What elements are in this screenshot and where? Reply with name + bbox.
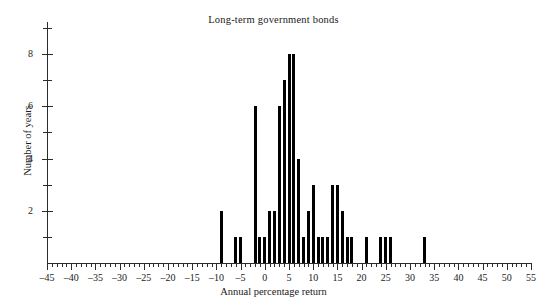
histogram-bar	[273, 211, 276, 263]
x-axis-tick-minor	[115, 263, 116, 267]
histogram-bar	[331, 185, 334, 263]
x-axis-tick-minor	[347, 263, 348, 267]
x-axis-tick-minor	[366, 263, 367, 267]
x-axis-tick-minor	[66, 263, 67, 267]
x-axis-tick-minor	[260, 263, 261, 267]
x-axis-tick-minor	[173, 263, 174, 267]
x-axis-tick-minor	[158, 263, 159, 267]
histogram-bar	[234, 237, 237, 263]
x-axis-tick-major	[362, 263, 363, 270]
x-axis-tick-major	[337, 263, 338, 270]
x-axis-tick-minor	[502, 263, 503, 267]
y-axis-line	[47, 22, 48, 264]
x-axis-tick-minor	[134, 263, 135, 267]
x-axis-tick-minor	[516, 263, 517, 267]
x-axis-tick-major	[241, 263, 242, 270]
histogram-bar	[268, 211, 271, 263]
x-axis-tick-minor	[308, 263, 309, 267]
x-axis-tick-minor	[468, 263, 469, 267]
x-axis-tick-major	[71, 263, 72, 270]
x-axis-tick-minor	[439, 263, 440, 267]
x-axis-tick-major	[168, 263, 169, 270]
x-axis-tick-major	[507, 263, 508, 270]
x-axis-tick-minor	[526, 263, 527, 267]
histogram-bar	[321, 237, 324, 263]
histogram-bar	[288, 54, 291, 263]
x-axis-tick-minor	[357, 263, 358, 267]
y-axis-tick-minor	[43, 185, 52, 186]
histogram-bar	[317, 237, 320, 263]
x-axis-tick-minor	[487, 263, 488, 267]
x-axis-tick-minor	[52, 263, 53, 267]
figure-canvas: Long-term government bonds 2468 –45–40–3…	[0, 0, 547, 303]
y-axis-tick-major	[42, 54, 53, 55]
x-axis-tick-minor	[57, 263, 58, 267]
x-axis-tick-minor	[153, 263, 154, 267]
y-axis-tick-major	[42, 159, 53, 160]
x-axis-tick-label: 55	[511, 272, 547, 283]
x-axis-tick-minor	[323, 263, 324, 267]
x-axis-tick-minor	[197, 263, 198, 267]
x-axis-tick-major	[434, 263, 435, 270]
x-axis-tick-minor	[395, 263, 396, 267]
x-axis-tick-minor	[279, 263, 280, 267]
x-axis-tick-minor	[497, 263, 498, 267]
x-axis-tick-minor	[221, 263, 222, 267]
x-axis-tick-minor	[463, 263, 464, 267]
x-axis-title: Annual percentage return	[0, 286, 547, 297]
histogram-bar	[302, 237, 305, 263]
x-axis-tick-major	[313, 263, 314, 270]
histogram-bar	[389, 237, 392, 263]
x-axis-tick-minor	[391, 263, 392, 267]
x-axis-tick-minor	[207, 263, 208, 267]
x-axis-tick-minor	[473, 263, 474, 267]
y-axis-title: Number of years	[22, 71, 33, 211]
x-axis-tick-major	[192, 263, 193, 270]
x-axis-tick-minor	[250, 263, 251, 267]
x-axis-tick-major	[95, 263, 96, 270]
x-axis-tick-minor	[274, 263, 275, 267]
x-axis-tick-major	[289, 263, 290, 270]
x-axis-tick-minor	[333, 263, 334, 267]
x-axis-tick-major	[458, 263, 459, 270]
x-axis-tick-minor	[371, 263, 372, 267]
histogram-bar	[307, 211, 310, 263]
x-axis-tick-minor	[342, 263, 343, 267]
x-axis-tick-minor	[478, 263, 479, 267]
histogram-bar	[258, 237, 261, 263]
x-axis-tick-minor	[226, 263, 227, 267]
x-axis-tick-minor	[76, 263, 77, 267]
x-axis-tick-major	[265, 263, 266, 270]
histogram-bar	[379, 237, 382, 263]
x-axis-tick-minor	[444, 263, 445, 267]
x-axis-tick-minor	[105, 263, 106, 267]
x-axis-tick-minor	[202, 263, 203, 267]
x-axis-tick-minor	[91, 263, 92, 267]
x-axis-tick-major	[47, 263, 48, 270]
x-axis-tick-minor	[245, 263, 246, 267]
x-axis-tick-minor	[420, 263, 421, 267]
x-axis-tick-minor	[62, 263, 63, 267]
x-axis-tick-minor	[100, 263, 101, 267]
histogram-bar	[346, 237, 349, 263]
histogram-bar	[365, 237, 368, 263]
y-axis-tick-label: 8	[7, 49, 33, 59]
histogram-bar	[239, 237, 242, 263]
histogram-bar	[336, 185, 339, 263]
x-axis-tick-minor	[129, 263, 130, 267]
x-axis-tick-minor	[183, 263, 184, 267]
x-axis-tick-minor	[294, 263, 295, 267]
y-axis-tick-minor	[43, 28, 52, 29]
x-axis-tick-minor	[454, 263, 455, 267]
x-axis-tick-minor	[376, 263, 377, 267]
histogram-bar	[254, 106, 257, 263]
x-axis-tick-minor	[400, 263, 401, 267]
x-axis-tick-major	[216, 263, 217, 270]
x-axis-tick-minor	[521, 263, 522, 267]
x-axis-tick-minor	[405, 263, 406, 267]
y-axis-tick-major	[42, 211, 53, 212]
x-axis-tick-minor	[139, 263, 140, 267]
x-axis-tick-minor	[492, 263, 493, 267]
histogram-bar	[326, 237, 329, 263]
x-axis-tick-major	[120, 263, 121, 270]
